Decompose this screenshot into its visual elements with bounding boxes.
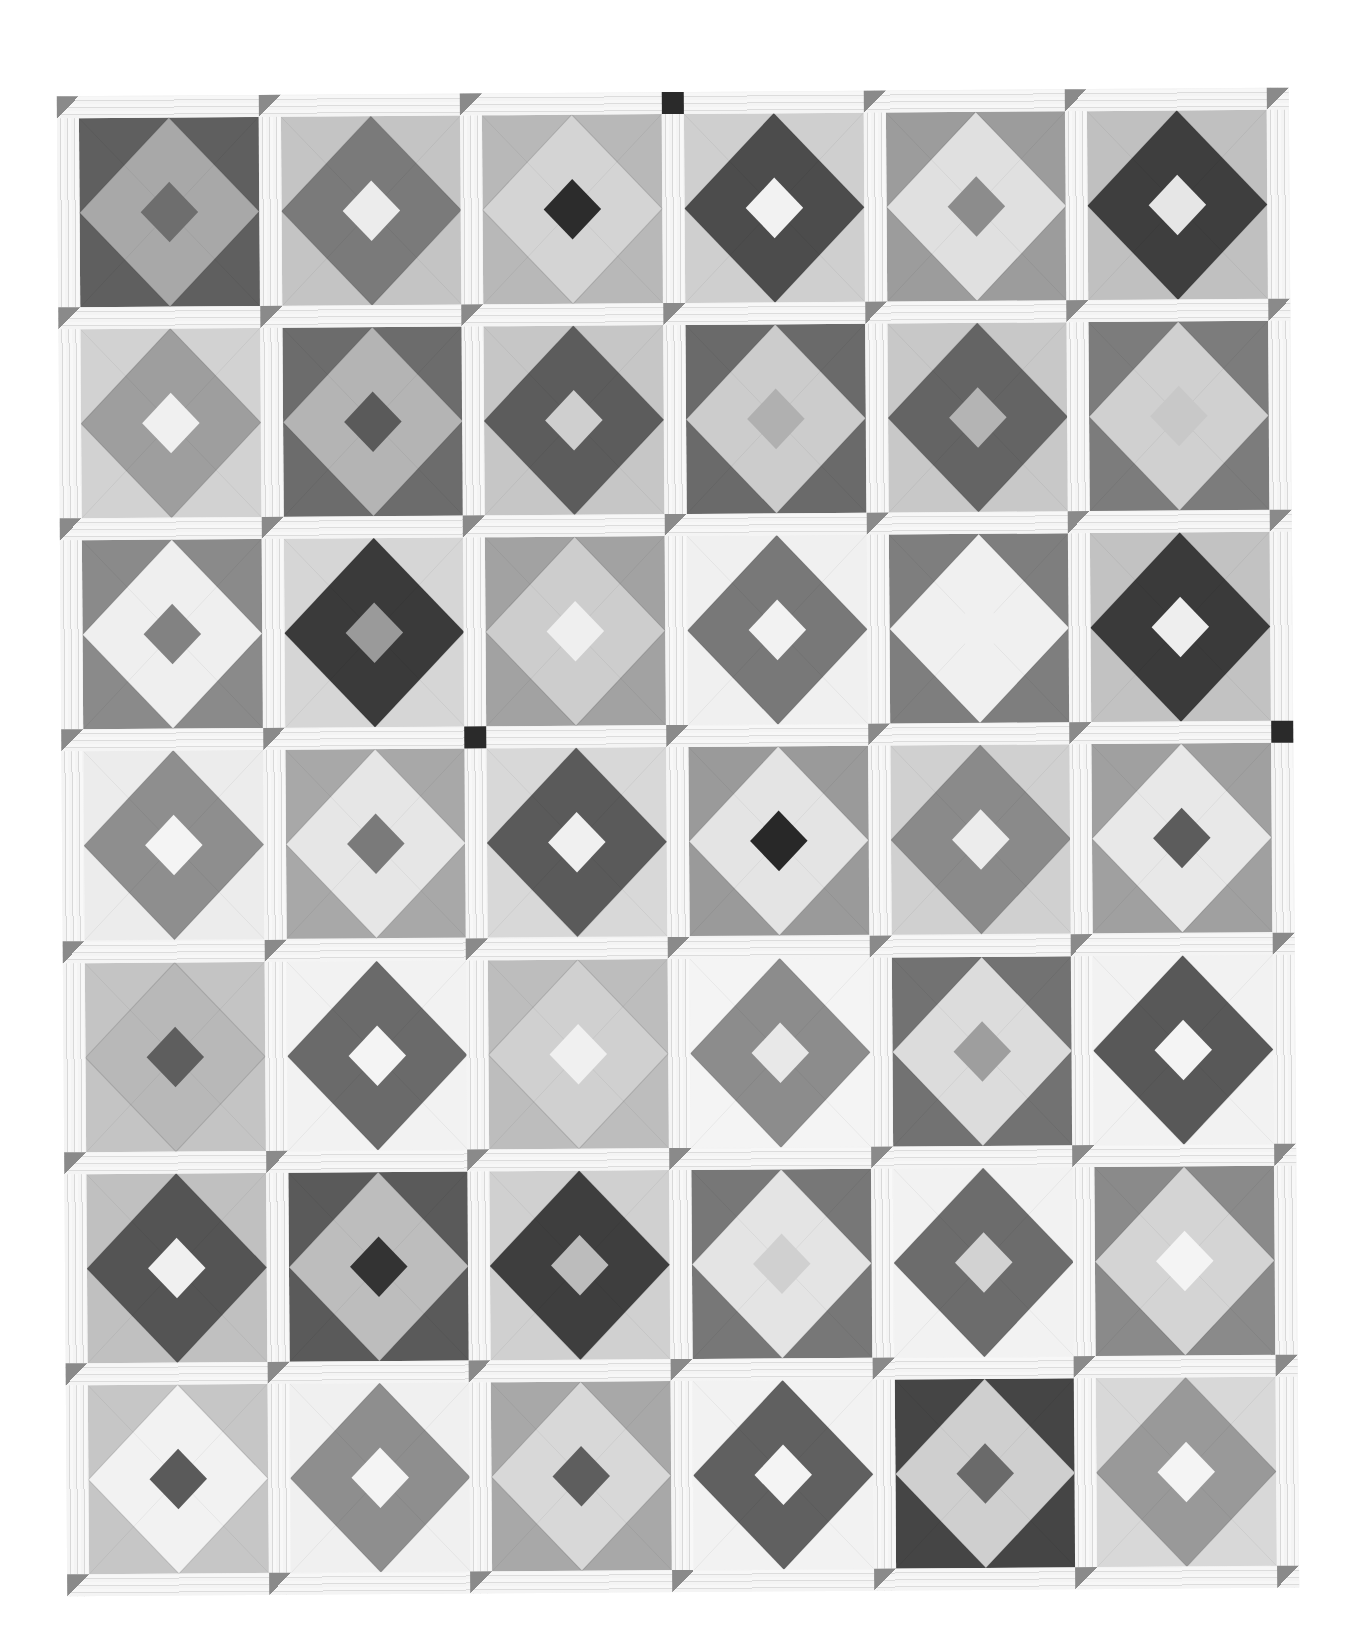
cornerstone (872, 1357, 894, 1379)
quilt-block (890, 745, 1071, 935)
quilt-block (887, 322, 1068, 512)
cornerstone (470, 1571, 492, 1593)
cornerstone (264, 939, 286, 961)
quilt-block (693, 1379, 874, 1569)
quilt-block (685, 324, 866, 514)
quilt-block (82, 539, 263, 729)
quilt-block (285, 749, 466, 939)
quilt-block (1087, 110, 1268, 300)
cornerstone (1274, 1143, 1296, 1165)
quilt-block (1089, 321, 1270, 511)
quilt-block (484, 325, 665, 515)
cornerstone (267, 1362, 289, 1384)
quilt-block (688, 746, 869, 936)
quilt-block (1092, 743, 1273, 933)
quilt-block (288, 1171, 469, 1361)
cornerstone (672, 1570, 694, 1592)
cornerstone (269, 1573, 291, 1595)
cornerstone (1070, 723, 1092, 745)
cornerstone (865, 302, 887, 324)
quilt-block (490, 1170, 671, 1360)
quilt-block (690, 957, 871, 1147)
cornerstone (1277, 1566, 1299, 1588)
quilt-block (1096, 1377, 1277, 1567)
cornerstone (1065, 89, 1087, 111)
cornerstone (57, 96, 79, 118)
cornerstone (1074, 1356, 1096, 1378)
cornerstone (260, 306, 282, 328)
quilt-block (1093, 954, 1274, 1144)
cornerstone (1268, 299, 1290, 321)
quilt-block (83, 750, 264, 940)
quilt-block (886, 111, 1067, 301)
quilt-block (80, 328, 261, 518)
cornerstone (467, 1149, 489, 1171)
cornerstone (60, 518, 82, 540)
cornerstone (866, 513, 888, 535)
quilt-block (282, 327, 463, 517)
cornerstone (58, 307, 80, 329)
cornerstone (668, 936, 690, 958)
cornerstone (469, 1360, 491, 1382)
cornerstone (868, 724, 890, 746)
cornerstone (67, 1574, 89, 1596)
cornerstone (462, 304, 484, 326)
cornerstone (64, 1152, 86, 1174)
cornerstone (63, 941, 85, 963)
quilt-block (891, 956, 1072, 1146)
cornerstone (1075, 1567, 1097, 1589)
quilt-block (889, 534, 1070, 724)
cornerstone (266, 1150, 288, 1172)
quilt-block (284, 538, 465, 728)
quilt-block (1095, 1166, 1276, 1356)
cornerstone (66, 1363, 88, 1385)
quilt-block (289, 1382, 470, 1572)
cornerstone (261, 517, 283, 539)
cornerstone (61, 730, 83, 752)
quilt-block (485, 536, 666, 726)
cornerstone (662, 92, 684, 114)
cornerstone (263, 728, 285, 750)
cornerstone (1072, 1145, 1094, 1167)
cornerstone (669, 1148, 691, 1170)
cornerstone (1067, 300, 1089, 322)
cornerstone (466, 938, 488, 960)
cornerstone (874, 1568, 896, 1590)
quilt-block (86, 1173, 267, 1363)
quilt-block (482, 114, 663, 304)
cornerstone (663, 303, 685, 325)
quilt-block (79, 117, 260, 307)
quilt-block (88, 1384, 269, 1574)
cornerstone (1071, 934, 1093, 956)
quilt-block (684, 113, 865, 303)
quilt-block (894, 1378, 1075, 1568)
cornerstone (1267, 88, 1289, 110)
cornerstone (863, 91, 885, 113)
quilt-block (687, 535, 868, 725)
quilt-block (1090, 532, 1271, 722)
cornerstone (1273, 932, 1295, 954)
quilt-block (281, 116, 462, 306)
cornerstone (258, 95, 280, 117)
quilt-block (893, 1167, 1074, 1357)
cornerstone (463, 516, 485, 538)
cornerstone (1271, 721, 1293, 743)
cornerstone (869, 935, 891, 957)
cornerstone (665, 514, 687, 536)
cornerstone (1270, 510, 1292, 532)
cornerstone (460, 93, 482, 115)
quilt-block (286, 960, 467, 1150)
quilt-block (691, 1168, 872, 1358)
cornerstone (871, 1146, 893, 1168)
quilt-block (488, 959, 669, 1149)
cornerstone (1068, 511, 1090, 533)
quilt-block (491, 1381, 672, 1571)
cornerstone (671, 1359, 693, 1381)
quilt-block (487, 748, 668, 938)
cornerstone (666, 725, 688, 747)
cornerstone (465, 727, 487, 749)
cornerstone (1276, 1355, 1298, 1377)
quilt (57, 88, 1299, 1597)
quilt-block (85, 961, 266, 1151)
